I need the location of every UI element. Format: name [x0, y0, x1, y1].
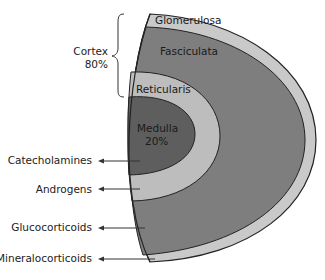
label-glomerulosa: Glomerulosa [155, 14, 221, 26]
product-androgens: Androgens [36, 183, 140, 195]
product-glucocorticoids: Glucocorticoids [11, 221, 145, 233]
label-medulla-percent: 20% [145, 135, 168, 147]
label-cortex-percent: 80% [85, 58, 108, 70]
product-mineralocorticoids: Mineralocorticoids [0, 252, 155, 264]
label-reticularis: Reticularis [136, 83, 191, 95]
arrow-left-icon [98, 226, 104, 231]
svg-text:Mineralocorticoids: Mineralocorticoids [0, 252, 92, 264]
label-fasciculata: Fasciculata [160, 45, 218, 57]
label-medulla: Medulla [137, 122, 178, 134]
svg-text:Glucocorticoids: Glucocorticoids [11, 221, 92, 233]
label-cortex: Cortex [73, 45, 108, 57]
product-catecholamines: Catecholamines [8, 154, 140, 166]
adrenal-diagram: Glomerulosa Fasciculata Reticularis Medu… [0, 0, 325, 280]
cortex-brace-icon [112, 14, 124, 97]
svg-text:Catecholamines: Catecholamines [8, 154, 92, 166]
arrow-left-icon [98, 187, 104, 192]
arrow-left-icon [98, 257, 104, 262]
arrow-left-icon [98, 159, 104, 164]
svg-text:Androgens: Androgens [36, 183, 92, 195]
